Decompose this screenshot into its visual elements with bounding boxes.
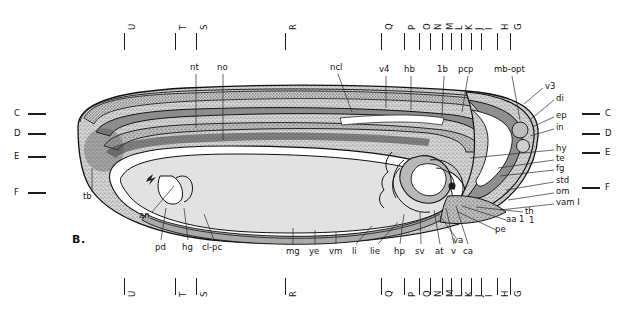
left-level-tick (28, 133, 46, 135)
top-marker-tick (196, 33, 197, 50)
bottom-marker-tick (175, 278, 176, 295)
label-hp: hp (394, 247, 405, 256)
bottom-marker-letter: P (408, 292, 417, 297)
label-mb-opt: mb-opt (494, 65, 525, 74)
label-tb: tb (83, 192, 92, 201)
top-marker-letter: N (434, 24, 443, 30)
top-marker-tick (471, 33, 472, 50)
top-marker-tick (404, 33, 405, 50)
label-vm: vm (329, 247, 342, 256)
right-level-letter: D (605, 129, 612, 138)
top-marker-tick (430, 33, 431, 50)
bottom-marker-tick (451, 278, 452, 295)
label-an: an (139, 211, 150, 220)
label-pd: pd (155, 243, 166, 252)
top-marker-tick (451, 33, 452, 50)
label-cl-pc: cl-pc (202, 243, 222, 252)
label-di: di (556, 94, 564, 103)
label-om: om (556, 187, 569, 196)
top-marker-letter: G (514, 23, 523, 30)
label-hg: hg (182, 243, 193, 252)
right-level-tick (582, 133, 600, 135)
telencephalon-lobe (517, 140, 530, 153)
bottom-marker-letter: I (485, 294, 494, 297)
top-marker-tick (381, 33, 382, 50)
top-marker-letter: I (485, 27, 494, 30)
bottom-marker-tick (196, 278, 197, 295)
left-level-letter: D (14, 129, 21, 138)
label-v: v (451, 247, 456, 256)
label-nt: nt (190, 63, 199, 72)
top-marker-tick (175, 33, 176, 50)
label-vam-i: vam I (556, 198, 580, 207)
top-marker-letter: L (455, 25, 464, 30)
bottom-marker-letter: L (455, 292, 464, 297)
bottom-marker-tick (442, 278, 443, 295)
left-level-tick (28, 113, 46, 115)
bottom-marker-letter: R (289, 291, 298, 297)
top-marker-tick (481, 33, 482, 50)
top-marker-letter: J (475, 27, 484, 30)
label-v4: v4 (379, 65, 389, 74)
top-marker-tick (124, 33, 125, 50)
label-va: va (453, 236, 463, 245)
embryo-drawing (0, 0, 622, 325)
label-v3: v3 (545, 82, 555, 91)
left-level-letter: C (14, 109, 20, 118)
bottom-marker-tick (497, 278, 498, 295)
top-marker-letter: T (179, 25, 188, 30)
left-level-letter: E (14, 152, 19, 161)
top-marker-tick (285, 33, 286, 50)
top-marker-tick (461, 33, 462, 50)
bottom-marker-letter: J (475, 294, 484, 297)
bottom-marker-letter: G (514, 290, 523, 297)
top-marker-tick (510, 33, 511, 50)
bottom-marker-tick (430, 278, 431, 295)
label-std: std (556, 176, 569, 185)
label-ncl: ncl (330, 63, 342, 72)
label-ye: ye (309, 247, 319, 256)
label-extra-1: 1 (529, 216, 534, 225)
top-marker-letter: P (408, 25, 417, 30)
bottom-marker-letter: T (179, 292, 188, 297)
bottom-marker-tick (419, 278, 420, 295)
bottom-marker-letter: H (501, 291, 510, 297)
right-level-letter: F (605, 183, 610, 192)
label-at: at (435, 247, 444, 256)
label-in: in (556, 123, 564, 132)
bottom-marker-tick (404, 278, 405, 295)
label-pcp: pcp (458, 65, 473, 74)
top-marker-letter: S (200, 25, 209, 30)
label-no: no (217, 63, 228, 72)
label-fg: fg (556, 164, 564, 173)
left-level-tick (28, 192, 46, 194)
bottom-marker-tick (124, 278, 125, 295)
label-pe: pe (495, 225, 506, 234)
panel-label: B. (72, 233, 86, 246)
right-level-letter: C (605, 109, 611, 118)
bottom-marker-letter: S (200, 292, 209, 297)
embryo-sagittal-section-figure: U T S R Q P O N M L K J I H G U T (0, 0, 622, 325)
top-marker-tick (497, 33, 498, 50)
right-level-letter: E (605, 148, 610, 157)
heart-lumen-dot (449, 183, 456, 190)
top-marker-letter: U (128, 24, 137, 30)
right-level-tick (582, 113, 600, 115)
label-mg: mg (286, 247, 300, 256)
optic-vesicle (512, 122, 528, 138)
top-marker-letter: K (465, 24, 474, 30)
bottom-marker-letter: Q (385, 290, 394, 297)
bottom-marker-letter: K (465, 291, 474, 297)
top-marker-letter: Q (385, 23, 394, 30)
bottom-marker-tick (381, 278, 382, 295)
right-level-tick (582, 152, 600, 154)
left-level-tick (28, 156, 46, 158)
label-lie: lie (370, 247, 380, 256)
label-hy: hy (556, 144, 566, 153)
label-ca: ca (463, 247, 473, 256)
top-marker-letter: H (501, 24, 510, 30)
bottom-marker-tick (481, 278, 482, 295)
bottom-marker-letter: U (128, 291, 137, 297)
top-marker-letter: O (423, 23, 432, 30)
label-te: te (556, 154, 565, 163)
